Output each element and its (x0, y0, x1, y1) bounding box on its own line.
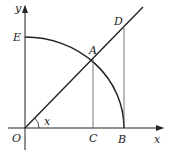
point-C-label: C (89, 132, 98, 145)
point-B-label: B (117, 133, 126, 146)
angle-label: x (44, 115, 51, 128)
trig-diagram: y x O E A D C B x (0, 0, 169, 160)
point-E-label: E (12, 31, 21, 44)
point-D-label: D (113, 15, 123, 28)
origin-label: O (12, 132, 21, 145)
x-axis-label: x (154, 133, 161, 146)
diagram-canvas: y x O E A D C B x (0, 0, 169, 160)
angle-arc (35, 118, 39, 128)
ray-OD (25, 7, 143, 128)
point-A-label: A (88, 44, 97, 57)
y-axis-label: y (14, 2, 22, 15)
unit-arc (25, 37, 124, 128)
